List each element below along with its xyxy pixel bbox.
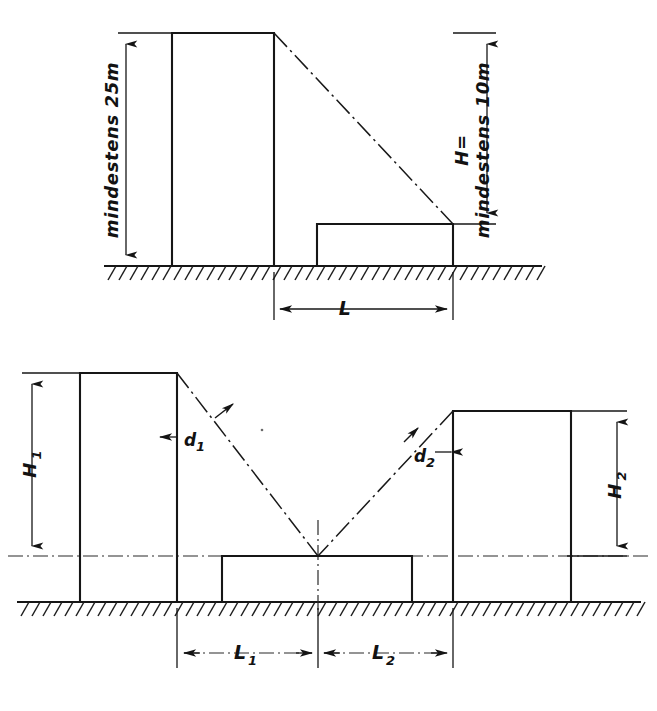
upper-sight-line	[274, 33, 453, 224]
upper-length-label: L	[339, 297, 352, 319]
upper-ground-hatching	[108, 266, 545, 280]
upper-left-height-label: mindestens 25m	[101, 62, 122, 238]
lower-right-distance-sub: 2	[426, 455, 435, 470]
lower-right-length-sub: 2	[386, 653, 395, 668]
upper-diagram-group: mindestens 25m H= mindestens 10m L	[101, 33, 545, 320]
lower-right-length-label: L	[372, 641, 385, 663]
diagram-canvas: mindestens 25m H= mindestens 10m L	[0, 0, 657, 711]
lower-left-height-label-group: H 1	[19, 450, 44, 477]
upper-low-building	[317, 224, 453, 266]
lower-left-building	[80, 373, 177, 602]
lower-right-height-label: H	[604, 483, 625, 499]
lower-right-distance-dimension	[404, 428, 451, 452]
lower-left-length-sub: 1	[248, 653, 257, 668]
lower-left-length-label: L	[234, 641, 247, 663]
lower-diagram-group: H 1 H 2 d 1	[8, 373, 650, 668]
lower-left-sight-line	[177, 373, 318, 556]
lower-centre-low-building	[222, 556, 412, 602]
upper-right-height-label-line2: mindestens 10m	[472, 62, 493, 238]
lower-right-building	[453, 411, 571, 602]
lower-right-sight-line	[318, 411, 453, 556]
upper-left-height-dimension	[118, 33, 176, 255]
lower-left-height-sub: 1	[29, 450, 44, 459]
technical-drawing-figure: mindestens 25m H= mindestens 10m L	[0, 0, 657, 711]
lower-right-height-sub: 2	[614, 471, 629, 480]
upper-length-dimension	[274, 272, 453, 320]
lower-ground	[18, 602, 645, 616]
upper-tall-building	[172, 33, 274, 266]
upper-right-height-label-line1: H=	[451, 134, 472, 165]
lower-left-height-label: H	[19, 462, 40, 478]
scan-speck	[261, 429, 264, 432]
lower-ground-hatching	[21, 602, 645, 616]
upper-ground	[105, 266, 545, 280]
lower-right-height-label-group: H 2	[604, 471, 629, 498]
lower-left-distance-sub: 1	[196, 439, 205, 454]
